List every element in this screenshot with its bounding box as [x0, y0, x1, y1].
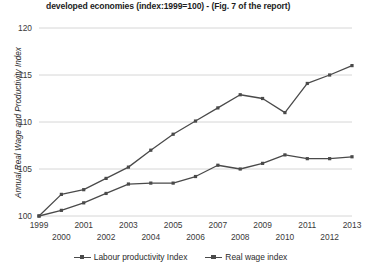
data-point-marker — [216, 164, 219, 167]
data-point-marker — [172, 182, 175, 185]
data-point-marker — [350, 155, 353, 158]
data-point-marker — [328, 73, 331, 76]
legend-item[interactable]: Real wage index — [205, 252, 287, 262]
legend-marker-icon — [205, 253, 222, 262]
series-line-labour-productivity — [39, 66, 352, 216]
data-point-marker — [194, 119, 197, 122]
legend-marker-icon — [74, 253, 91, 262]
data-point-marker — [37, 214, 40, 217]
data-point-marker — [127, 166, 130, 169]
legend-label: Labour productivity Index — [94, 252, 188, 262]
data-point-marker — [104, 177, 107, 180]
data-point-marker — [82, 188, 85, 191]
data-point-marker — [127, 182, 130, 185]
data-point-marker — [60, 209, 63, 212]
data-point-marker — [350, 64, 353, 67]
series-line-real-wage — [39, 155, 352, 216]
data-point-marker — [306, 157, 309, 160]
data-point-marker — [104, 192, 107, 195]
data-point-marker — [149, 182, 152, 185]
data-point-marker — [194, 175, 197, 178]
legend-item[interactable]: Labour productivity Index — [74, 252, 188, 262]
data-point-marker — [60, 193, 63, 196]
data-point-marker — [283, 153, 286, 156]
chart-legend: Labour productivity IndexReal wage index — [0, 252, 361, 262]
data-point-marker — [328, 157, 331, 160]
data-point-marker — [149, 149, 152, 152]
data-point-marker — [216, 106, 219, 109]
data-point-marker — [239, 167, 242, 170]
data-point-marker — [306, 82, 309, 85]
data-point-marker — [82, 201, 85, 204]
legend-label: Real wage index — [225, 252, 287, 262]
data-point-marker — [261, 97, 264, 100]
data-point-marker — [239, 93, 242, 96]
data-point-marker — [172, 133, 175, 136]
data-point-marker — [261, 162, 264, 165]
data-point-marker — [283, 111, 286, 114]
